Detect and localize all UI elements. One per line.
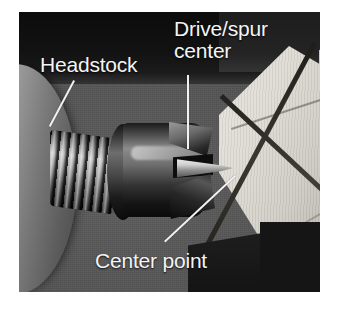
threaded-shaft [50,130,113,215]
label-headstock: Headstock [40,54,137,76]
photograph: Headstock Drive/spur center Center point [19,12,320,292]
shaft-threads [50,130,113,215]
label-center-point: Center point [95,250,207,272]
label-drive-spur-center-line2: center [174,39,231,62]
leader-line-drive-spur-center [187,75,189,149]
label-drive-spur-center-line1: Drive/spur [174,17,268,40]
label-drive-spur-center: Drive/spur center [174,18,268,61]
annotated-photo-figure: Headstock Drive/spur center Center point [0,0,340,314]
dark-corner-block [260,222,320,292]
